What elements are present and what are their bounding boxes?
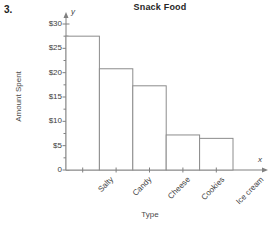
bar-candy[interactable] — [99, 69, 132, 170]
bar-cookies[interactable] — [166, 135, 199, 170]
x-axis-arrow — [262, 168, 268, 173]
plot-area — [0, 0, 273, 229]
bar-chart-figure: 3. Snack Food Amount Spent Type 0$5$10$1… — [0, 0, 273, 229]
bar-salty[interactable] — [66, 36, 99, 170]
bar-ice-cream[interactable] — [200, 138, 233, 170]
y-axis-arrow — [64, 12, 69, 18]
bar-cheese[interactable] — [133, 86, 166, 170]
